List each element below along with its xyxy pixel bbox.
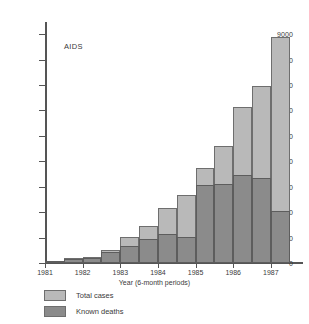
aids-series-label: AIDS	[64, 42, 83, 51]
x-axis-tick	[83, 263, 84, 268]
legend-swatch	[44, 290, 66, 301]
x-axis-tick	[271, 263, 272, 268]
x-axis-tick	[120, 263, 121, 268]
x-axis-tick	[158, 263, 159, 268]
legend-item: Known deaths	[44, 306, 124, 317]
x-axis-tick-label: 1982	[75, 269, 91, 276]
x-axis-tick	[45, 263, 46, 268]
y-axis-tick	[39, 212, 45, 213]
bar-known-deaths	[158, 234, 177, 263]
chart-legend: Total casesKnown deaths	[44, 290, 124, 322]
bar-known-deaths	[196, 185, 215, 263]
legend-item: Total cases	[44, 290, 124, 301]
x-axis-title: Year (6-month periods)	[0, 279, 309, 286]
x-axis-tick-label: 1983	[112, 269, 128, 276]
legend-swatch	[44, 306, 66, 317]
bar-known-deaths	[64, 259, 83, 263]
legend-label: Total cases	[76, 291, 114, 300]
y-axis-tick	[39, 60, 45, 61]
y-axis-tick	[39, 161, 45, 162]
y-axis-tick	[39, 238, 45, 239]
y-axis-tick	[39, 34, 45, 35]
bar-known-deaths	[101, 252, 120, 263]
bar-known-deaths	[83, 258, 102, 263]
bar-known-deaths	[139, 239, 158, 263]
bar-known-deaths	[177, 237, 196, 263]
bar-known-deaths	[271, 211, 290, 263]
x-axis-tick-label: 1987	[263, 269, 279, 276]
plot-area: 0100020003000400050006000700080009000198…	[45, 24, 301, 263]
bar-known-deaths	[252, 178, 271, 263]
bar-known-deaths	[120, 246, 139, 263]
y-axis-tick	[39, 85, 45, 86]
x-axis-tick-label: 1984	[150, 269, 166, 276]
legend-label: Known deaths	[76, 307, 124, 316]
y-axis-tick	[39, 136, 45, 137]
x-axis-tick	[233, 263, 234, 268]
bar-known-deaths	[45, 261, 64, 263]
bar-known-deaths	[214, 184, 233, 263]
y-axis-tick	[39, 110, 45, 111]
aids-bar-chart: 0100020003000400050006000700080009000198…	[0, 0, 309, 324]
y-axis-tick	[39, 187, 45, 188]
x-axis-tick-label: 1985	[188, 269, 204, 276]
x-axis-tick-label: 1986	[225, 269, 241, 276]
bar-known-deaths	[233, 175, 252, 263]
x-axis-tick-label: 1981	[37, 269, 53, 276]
x-axis-tick	[196, 263, 197, 268]
